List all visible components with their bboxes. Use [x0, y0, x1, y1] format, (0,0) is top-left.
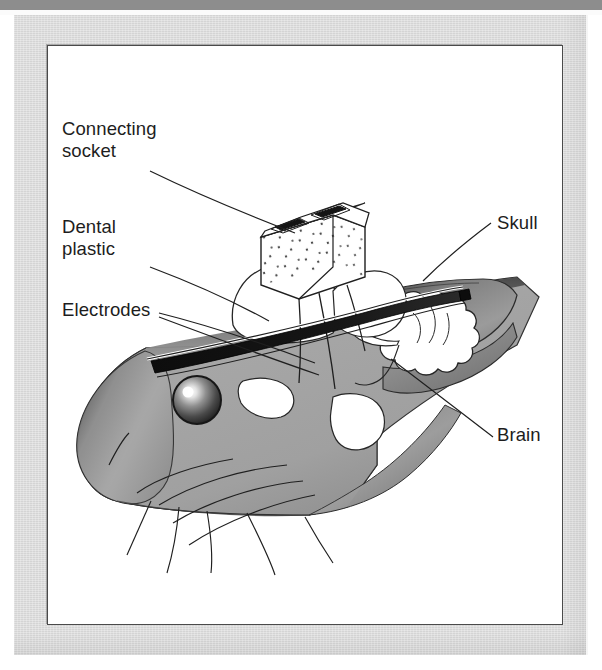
eye-highlight — [183, 387, 194, 398]
whisker-8 — [247, 513, 275, 575]
whisker-5 — [127, 501, 151, 555]
leader-line-connecting-socket — [150, 171, 295, 233]
whisker-6 — [167, 507, 179, 573]
label-electrodes: Electrodes — [62, 299, 150, 321]
skull-foramen — [330, 394, 384, 450]
eye — [173, 376, 221, 424]
scan-top-bar — [0, 0, 602, 10]
scan-edge-shading-right — [562, 15, 588, 655]
whisker-9 — [305, 517, 333, 563]
leader-line-skull — [423, 223, 491, 281]
label-connecting-socket: Connecting socket — [62, 118, 157, 162]
label-skull: Skull — [497, 212, 538, 234]
scanned-figure-page: Connecting socket Dental plastic Electro… — [0, 0, 602, 670]
label-brain: Brain — [497, 424, 541, 446]
eye-group — [173, 376, 221, 424]
label-dental-plastic: Dental plastic — [62, 216, 116, 260]
electrode-tip — [459, 289, 471, 301]
scan-edge-shading-bottom — [14, 633, 586, 655]
whisker-7 — [207, 511, 212, 573]
